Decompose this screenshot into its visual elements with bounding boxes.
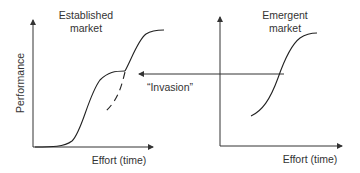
right-panel: Emergent market Effort (time) — [220, 9, 342, 165]
right-title-line1: Emergent — [262, 9, 308, 21]
invasion-arrow: “Invasion” — [139, 74, 284, 93]
right-x-axis-label: Effort (time) — [283, 153, 338, 165]
left-x-axis-label: Effort (time) — [92, 154, 147, 166]
new-technology-curve — [125, 30, 164, 71]
left-title-line1: Established — [59, 9, 113, 21]
left-title-line2: market — [70, 22, 102, 34]
right-title-line2: market — [269, 22, 301, 34]
invasion-label: “Invasion” — [147, 81, 194, 93]
s-curve-invasion-diagram: Established market Performance Effort (t… — [0, 0, 360, 173]
y-axis-label: Performance — [14, 53, 26, 113]
established-s-curve — [35, 71, 125, 147]
left-panel: Established market Performance Effort (t… — [14, 9, 164, 166]
dashed-projection-curve — [104, 72, 125, 113]
